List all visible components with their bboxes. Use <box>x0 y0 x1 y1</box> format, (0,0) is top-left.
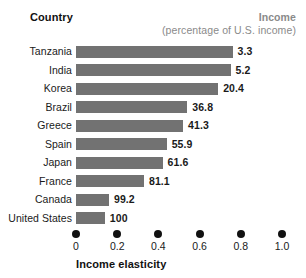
chart-row: Brazil36.8 <box>0 100 306 119</box>
x-axis-tick-label: 0.8 <box>233 240 248 252</box>
bar <box>76 64 231 76</box>
chart-row: Korea20.4 <box>0 81 306 100</box>
country-label: Canada <box>0 193 72 205</box>
bar <box>76 120 183 132</box>
country-label: Japan <box>0 156 72 168</box>
bar-value-label: 99.2 <box>114 193 135 205</box>
chart-row: India5.2 <box>0 63 306 82</box>
x-axis-tick-label: 0.2 <box>110 240 125 252</box>
bar <box>76 101 187 113</box>
bar <box>76 83 218 95</box>
bar-value-label: 36.8 <box>192 101 213 113</box>
tick-dot-icon <box>278 230 286 238</box>
country-label: France <box>0 175 72 187</box>
x-axis-title: Income elasticity <box>76 258 166 270</box>
chart-row: Tanzania3.3 <box>0 44 306 63</box>
bar-value-label: 41.3 <box>188 119 209 131</box>
chart-row: Canada99.2 <box>0 192 306 211</box>
country-label: Tanzania <box>0 45 72 57</box>
chart-row: Japan61.6 <box>0 155 306 174</box>
country-label: United States <box>0 212 72 224</box>
tick-dot-icon <box>237 230 245 238</box>
x-axis: 00.20.40.60.81.0 <box>0 230 306 258</box>
bar-value-label: 100 <box>110 212 128 224</box>
country-label: India <box>0 64 72 76</box>
bar <box>76 212 105 224</box>
x-axis-tick-label: 0.4 <box>151 240 166 252</box>
income-elasticity-chart: Country Income (percentage of U.S. incom… <box>0 0 306 278</box>
bar-value-label: 5.2 <box>236 64 251 76</box>
chart-row: United States100 <box>0 211 306 230</box>
plot-area: Tanzania3.3India5.2Korea20.4Brazil36.8Gr… <box>0 44 306 230</box>
country-label: Spain <box>0 138 72 150</box>
bar <box>76 194 109 206</box>
x-axis-tick-label: 0.6 <box>192 240 207 252</box>
tick-dot-icon <box>196 230 204 238</box>
column-header-income-sublabel: (percentage of U.S. income) <box>162 24 296 36</box>
bar <box>76 138 167 150</box>
bar-value-label: 3.3 <box>238 45 253 57</box>
x-axis-tick-label: 1.0 <box>275 240 290 252</box>
x-axis-tick-label: 0 <box>73 240 79 252</box>
bar-value-label: 81.1 <box>149 175 170 187</box>
bar <box>76 175 144 187</box>
chart-row: Spain55.9 <box>0 137 306 156</box>
bar <box>76 157 163 169</box>
bar-value-label: 20.4 <box>223 82 244 94</box>
bar-value-label: 55.9 <box>172 138 193 150</box>
country-label: Greece <box>0 119 72 131</box>
bar <box>76 46 233 58</box>
bar-value-label: 61.6 <box>168 156 189 168</box>
tick-dot-icon <box>113 230 121 238</box>
column-header-country: Country <box>30 11 73 23</box>
chart-row: Greece41.3 <box>0 118 306 137</box>
country-label: Brazil <box>0 101 72 113</box>
chart-row: France81.1 <box>0 174 306 193</box>
tick-dot-icon <box>154 230 162 238</box>
column-header-income: Income <box>259 11 296 23</box>
tick-dot-icon <box>72 230 80 238</box>
country-label: Korea <box>0 82 72 94</box>
